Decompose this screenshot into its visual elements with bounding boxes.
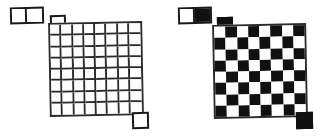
board-cell xyxy=(238,82,249,93)
board-cell xyxy=(226,60,237,71)
board-cell xyxy=(129,23,140,34)
board-cell xyxy=(226,38,237,49)
domino-checkered-half-2 xyxy=(195,9,210,22)
board-cell xyxy=(214,27,225,38)
board-cell xyxy=(130,79,141,90)
board-cell xyxy=(97,103,108,114)
board-cell xyxy=(62,58,73,69)
domino-plain-half-2 xyxy=(27,9,42,22)
board-cell xyxy=(73,58,84,69)
board-cell xyxy=(261,105,272,116)
board-cell xyxy=(62,36,73,47)
board-cell xyxy=(271,71,282,82)
board-cell xyxy=(271,82,282,93)
board-cell xyxy=(85,69,96,80)
board-cell xyxy=(282,25,293,36)
board-cell xyxy=(130,91,141,102)
board-cell xyxy=(119,102,130,113)
board-cell xyxy=(96,80,107,91)
board-cell xyxy=(270,26,281,37)
board-cell xyxy=(282,37,293,48)
board-cell xyxy=(216,105,227,116)
board-cell xyxy=(50,36,61,47)
board-cell xyxy=(74,80,85,91)
board-cell xyxy=(215,49,226,60)
board-cell xyxy=(293,48,304,59)
board-cell xyxy=(215,60,226,71)
board-cell xyxy=(227,94,238,105)
board-cell xyxy=(260,48,271,59)
board-cell xyxy=(84,47,95,58)
board-cell xyxy=(107,46,118,57)
board-cell xyxy=(85,91,96,102)
board-cell xyxy=(249,105,260,116)
board-cell xyxy=(73,35,84,46)
board-cell xyxy=(259,37,270,48)
board-cell xyxy=(215,83,226,94)
board-cell xyxy=(51,58,62,69)
board-cell xyxy=(118,57,129,68)
board-cell xyxy=(237,60,248,71)
board-cell xyxy=(293,36,304,47)
board-cell xyxy=(96,46,107,57)
loose-square-bottom-plain xyxy=(132,112,149,129)
board-cell xyxy=(282,70,293,81)
board-cell xyxy=(129,34,140,45)
board-cell xyxy=(61,24,72,35)
plain-grid-panel xyxy=(0,0,164,137)
board-cell xyxy=(74,92,85,103)
board-cell xyxy=(129,46,140,57)
board-cell xyxy=(107,35,118,46)
board-cell xyxy=(96,58,107,69)
board-cell xyxy=(237,26,248,37)
board-cell xyxy=(85,103,96,114)
board-cell xyxy=(237,37,248,48)
board-cell xyxy=(259,26,270,37)
board-cell xyxy=(249,82,260,93)
board-cell xyxy=(95,24,106,35)
board-cell xyxy=(226,83,237,94)
board-cell xyxy=(272,104,283,115)
board-cell xyxy=(95,35,106,46)
checkerboard-panel xyxy=(164,0,328,137)
domino-checkered xyxy=(178,7,212,25)
board-cell xyxy=(51,81,62,92)
board-cell xyxy=(62,47,73,58)
loose-square-bottom-checkered xyxy=(296,112,313,129)
plain-board xyxy=(48,21,144,117)
board-cell xyxy=(107,69,118,80)
board-cell xyxy=(294,93,305,104)
board-cell xyxy=(118,46,129,57)
board-cell xyxy=(248,37,259,48)
board-cell xyxy=(73,24,84,35)
board-cell xyxy=(63,92,74,103)
board-cell xyxy=(283,82,294,93)
board-cell xyxy=(271,48,282,59)
board-cell xyxy=(260,71,271,82)
board-cell xyxy=(215,94,226,105)
board-cell xyxy=(260,93,271,104)
board-cell xyxy=(130,68,141,79)
board-cell xyxy=(226,49,237,60)
board-cell xyxy=(84,35,95,46)
figure-root xyxy=(0,0,328,137)
board-cell xyxy=(63,103,74,114)
board-cell xyxy=(260,82,271,93)
board-cell xyxy=(237,49,248,60)
board-cell xyxy=(106,24,117,35)
board-cell xyxy=(238,105,249,116)
board-cell xyxy=(294,70,305,81)
board-cell xyxy=(249,60,260,71)
board-cell xyxy=(283,93,294,104)
board-cell xyxy=(271,59,282,70)
board-cell xyxy=(85,80,96,91)
board-cell xyxy=(74,103,85,114)
board-cell xyxy=(294,81,305,92)
board-cell xyxy=(84,24,95,35)
board-cell xyxy=(119,91,130,102)
board-cell xyxy=(226,71,237,82)
board-cell xyxy=(248,26,259,37)
board-cell xyxy=(51,70,62,81)
board-cell xyxy=(74,69,85,80)
board-cell xyxy=(294,59,305,70)
